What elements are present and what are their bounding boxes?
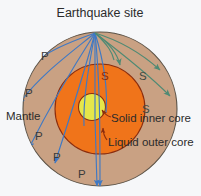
p-wave-label: P <box>53 151 61 163</box>
liquid-outer-core-label: Liquid outer core <box>108 136 194 148</box>
inner-core-layer <box>79 94 106 121</box>
p-wave-label: P <box>41 50 49 62</box>
earthquake-wave-diagram: Earthquake site Mantle Solid inner core … <box>0 0 201 196</box>
p-wave-label: P <box>35 130 43 142</box>
solid-inner-core-label: Solid inner core <box>111 112 191 124</box>
s-wave-label: S <box>139 70 147 82</box>
s-wave-label: S <box>142 103 150 115</box>
p-wave-label: P <box>78 168 86 180</box>
mantle-label: Mantle <box>6 110 41 122</box>
s-wave-label: S <box>101 70 109 82</box>
page-title: Earthquake site <box>57 6 144 20</box>
p-wave-label: P <box>25 87 33 99</box>
